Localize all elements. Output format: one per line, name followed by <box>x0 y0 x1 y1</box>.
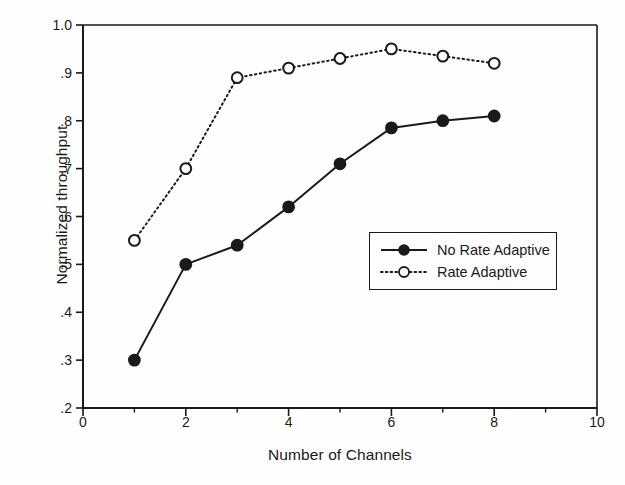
data-point-open <box>335 53 346 64</box>
data-point-filled <box>334 158 345 169</box>
x-axis-tick-label: 2 <box>171 414 201 430</box>
legend-label: No Rate Adaptive <box>437 242 550 258</box>
legend-label: Rate Adaptive <box>437 264 527 280</box>
data-point-filled <box>437 115 448 126</box>
legend-entry-no-rate-adaptive: No Rate Adaptive <box>379 239 550 261</box>
x-axis-tick-label: 4 <box>274 414 304 430</box>
legend-marker-filled-circle-icon <box>379 241 429 259</box>
x-axis-tick-label: 0 <box>68 414 98 430</box>
data-point-filled <box>180 259 191 270</box>
x-axis-tick-label: 6 <box>376 414 406 430</box>
legend-entry-rate-adaptive: Rate Adaptive <box>379 261 527 283</box>
data-point-filled <box>232 240 243 251</box>
x-axis-tick-label: 8 <box>479 414 509 430</box>
data-point-filled <box>283 201 294 212</box>
data-point-open <box>180 163 191 174</box>
data-point-filled <box>386 122 397 133</box>
axes <box>76 25 597 416</box>
data-point-open <box>489 58 500 69</box>
data-point-open <box>232 72 243 83</box>
legend-marker-open-circle-icon <box>379 263 429 281</box>
x-axis-tick-label: 10 <box>582 414 612 430</box>
data-point-filled <box>489 110 500 121</box>
legend: No Rate Adaptive Rate Adaptive <box>369 232 557 290</box>
data-point-open <box>386 44 397 55</box>
chart-figure: Normalized throughput Number of Channels… <box>0 0 625 485</box>
data-point-open <box>129 235 140 246</box>
data-point-open <box>283 63 294 74</box>
data-point-open <box>437 51 448 62</box>
series-line-rate-adaptive <box>134 49 494 241</box>
data-series-group <box>129 44 500 366</box>
data-point-filled <box>129 355 140 366</box>
